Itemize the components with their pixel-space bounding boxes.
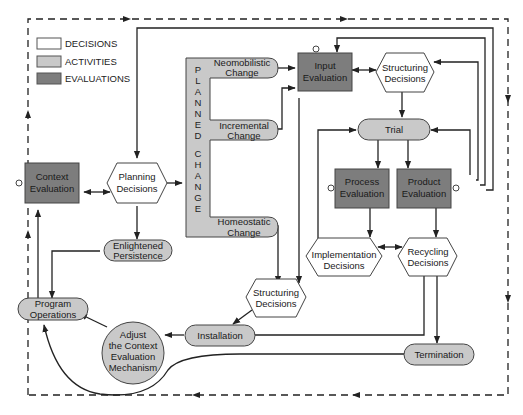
node-planned-change[interactable]: P L A N N E D C H A N G E Neomobilistic … [186, 57, 278, 238]
legend: DECISIONS ACTIVITIES EVALUATIONS [37, 38, 130, 84]
homeostatic-change-line2: Change [227, 227, 260, 238]
process-evaluation-line1: Process [345, 176, 380, 187]
node-context-evaluation[interactable]: Context Evaluation [16, 163, 79, 203]
svg-text:C: C [195, 148, 202, 159]
node-implementation-decisions[interactable]: Implementation Decisions [306, 238, 382, 276]
node-product-evaluation[interactable]: Product Evaluation [397, 169, 459, 208]
input-evaluation-line2: Evaluation [303, 72, 347, 83]
knob-icon [328, 185, 334, 191]
adjust-mechanism-line2: the Context [109, 340, 158, 351]
implementation-decisions-line2: Decisions [323, 260, 364, 271]
planning-decisions-line1: Planning [119, 171, 156, 182]
legend-swatch-evaluations [37, 73, 61, 84]
installation-label: Installation [197, 330, 242, 341]
neomobilistic-change-line2: Change [225, 67, 258, 78]
program-operations-line2: Operations [30, 309, 77, 320]
svg-text:N: N [195, 181, 202, 192]
structuring-decisions-top-line2: Decisions [384, 73, 425, 84]
homeostatic-change-line1: Homeostatic [218, 216, 271, 227]
svg-text:A: A [195, 86, 202, 97]
node-adjust-context-evaluation-mechanism[interactable]: Adjust the Context Evaluation Mechanism [102, 322, 164, 384]
product-evaluation-line1: Product [408, 176, 441, 187]
legend-label-activities: ACTIVITIES [65, 56, 117, 67]
svg-text:E: E [195, 203, 201, 214]
node-process-evaluation[interactable]: Process Evaluation [328, 169, 389, 208]
svg-text:N: N [195, 97, 202, 108]
knob-icon [453, 185, 459, 191]
node-recycling-decisions[interactable]: Recycling Decisions [398, 238, 457, 276]
node-installation[interactable]: Installation [185, 325, 255, 346]
cipp-flow-diagram: DECISIONS ACTIVITIES EVALUATIONS [0, 0, 523, 415]
svg-text:N: N [195, 108, 202, 119]
knob-icon [313, 46, 319, 52]
node-enlightened-persistence[interactable]: Enlightened Persistence [104, 240, 172, 261]
context-evaluation-line1: Context [36, 171, 69, 182]
legend-swatch-decisions [37, 38, 61, 49]
adjust-mechanism-line4: Mechanism [109, 362, 158, 373]
planned-change-vertical-label: P L A N N E D C H A N G E [194, 64, 202, 214]
input-evaluation-line1: Input [314, 60, 335, 71]
legend-swatch-activities [37, 56, 61, 67]
node-input-evaluation[interactable]: Input Evaluation [298, 46, 352, 91]
adjust-mechanism-line3: Evaluation [111, 351, 155, 362]
termination-label: Termination [414, 349, 463, 360]
program-operations-line1: Program [35, 298, 72, 309]
svg-text:L: L [195, 75, 200, 86]
svg-text:G: G [194, 192, 201, 203]
node-structuring-decisions-top[interactable]: Structuring Decisions [376, 53, 434, 92]
process-evaluation-line2: Evaluation [340, 188, 384, 199]
knob-icon [16, 180, 22, 186]
legend-label-evaluations: EVALUATIONS [65, 73, 130, 84]
product-evaluation-line2: Evaluation [402, 188, 446, 199]
node-program-operations[interactable]: Program Operations [18, 298, 88, 320]
node-planning-decisions[interactable]: Planning Decisions [107, 163, 167, 203]
svg-text:D: D [195, 130, 202, 141]
node-trial[interactable]: Trial [358, 119, 430, 140]
svg-text:P: P [195, 64, 201, 75]
node-termination[interactable]: Termination [404, 344, 474, 365]
adjust-mechanism-line1: Adjust [120, 329, 147, 340]
svg-text:H: H [195, 159, 202, 170]
planning-decisions-line2: Decisions [116, 183, 157, 194]
legend-label-decisions: DECISIONS [65, 38, 117, 49]
structuring-decisions-bottom-line1: Structuring [253, 287, 299, 298]
incremental-change-line2: Change [227, 130, 260, 141]
recycling-decisions-line2: Decisions [407, 257, 448, 268]
structuring-decisions-top-line1: Structuring [382, 62, 428, 73]
implementation-decisions-line1: Implementation [312, 249, 377, 260]
enlightened-persistence-line2: Persistence [113, 250, 163, 261]
svg-text:E: E [195, 119, 201, 130]
structuring-decisions-bottom-line2: Decisions [255, 298, 296, 309]
trial-label: Trial [385, 124, 403, 135]
node-structuring-decisions-bottom[interactable]: Structuring Decisions [246, 279, 306, 317]
svg-text:A: A [195, 170, 202, 181]
context-evaluation-line2: Evaluation [30, 183, 74, 194]
recycling-decisions-line1: Recycling [407, 246, 448, 257]
